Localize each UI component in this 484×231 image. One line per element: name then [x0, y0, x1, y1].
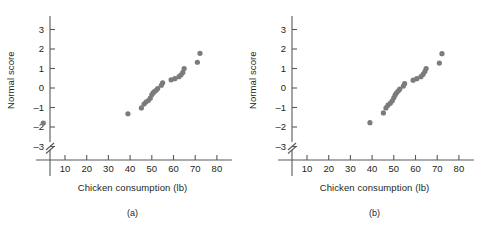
- y-tick-label-b-6: –3: [275, 141, 286, 152]
- x-tick-label-b-0: 10: [302, 163, 313, 174]
- x-tick-label-b-2: 30: [345, 163, 356, 174]
- data-point-b-20: [439, 51, 444, 56]
- y-tick-label-b-5: –2: [275, 121, 286, 132]
- data-point-b-0: [367, 120, 372, 125]
- data-point-b-19: [437, 60, 442, 65]
- x-tick-label-b-6: 70: [432, 163, 443, 174]
- x-tick-label-a-4: 50: [147, 163, 158, 174]
- y-axis-label-b: Normal score: [244, 30, 260, 130]
- panel-b: 3210–1–2–31020304050607080 Normal score …: [242, 0, 484, 231]
- x-tick-label-b-4: 50: [389, 163, 400, 174]
- y-tick-label-a-3: 0: [39, 82, 44, 93]
- x-tick-label-b-7: 80: [454, 163, 465, 174]
- x-tick-label-a-6: 70: [190, 163, 201, 174]
- y-tick-label-a-0: 3: [39, 24, 44, 35]
- data-point-a-13: [160, 80, 165, 85]
- scatter-plot-a: 3210–1–2–31020304050607080: [0, 0, 242, 206]
- panel-caption-b: (b): [282, 208, 467, 218]
- x-tick-label-b-3: 40: [367, 163, 378, 174]
- x-tick-label-b-1: 20: [323, 163, 334, 174]
- y-axis-label-a: Normal score: [2, 30, 18, 130]
- data-point-a-19: [182, 66, 187, 71]
- x-tick-label-a-1: 20: [81, 163, 92, 174]
- data-point-a-21: [197, 51, 202, 56]
- y-tick-label-a-1: 2: [39, 43, 44, 54]
- y-tick-label-b-2: 1: [281, 63, 286, 74]
- x-tick-label-a-3: 40: [125, 163, 136, 174]
- data-point-a-20: [195, 60, 200, 65]
- data-point-b-1: [381, 110, 386, 115]
- y-tick-label-a-4: –1: [33, 102, 44, 113]
- panel-a: 3210–1–2–31020304050607080 Normal score …: [0, 0, 242, 231]
- y-tick-label-a-6: –3: [33, 141, 44, 152]
- y-tick-label-a-2: 1: [39, 63, 44, 74]
- scatter-plot-b: 3210–1–2–31020304050607080: [242, 0, 484, 206]
- x-tick-label-a-0: 10: [60, 163, 71, 174]
- x-tick-label-b-5: 60: [410, 163, 421, 174]
- data-point-a-1: [125, 111, 130, 116]
- x-axis-label-a: Chicken consumption (lb): [40, 182, 225, 193]
- figure-container: 3210–1–2–31020304050607080 Normal score …: [0, 0, 484, 231]
- panel-caption-a: (a): [40, 208, 225, 218]
- x-tick-label-a-7: 80: [212, 163, 223, 174]
- y-tick-label-b-3: 0: [281, 82, 286, 93]
- data-point-a-0: [41, 121, 46, 126]
- x-axis-label-b: Chicken consumption (lb): [282, 182, 467, 193]
- x-tick-label-a-5: 60: [168, 163, 179, 174]
- y-tick-label-b-1: 2: [281, 43, 286, 54]
- x-tick-label-a-2: 30: [103, 163, 114, 174]
- data-point-b-18: [424, 66, 429, 71]
- y-tick-label-b-4: –1: [275, 102, 286, 113]
- y-tick-label-b-0: 3: [281, 24, 286, 35]
- data-point-b-12: [402, 81, 407, 86]
